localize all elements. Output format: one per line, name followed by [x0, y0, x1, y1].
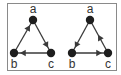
node-label-c: c — [48, 57, 54, 71]
node-b — [68, 49, 76, 57]
node-label-b: b — [11, 57, 18, 71]
arrowhead-icon — [96, 50, 102, 56]
node-c — [47, 49, 55, 57]
node-label-c: c — [105, 57, 111, 71]
right-graph: abc — [68, 2, 112, 71]
node-c — [104, 49, 112, 57]
edge-a-b — [72, 20, 90, 53]
arrowhead-icon — [20, 50, 26, 56]
left-graph: abc — [10, 2, 55, 71]
node-label-a: a — [30, 2, 37, 16]
node-a — [29, 16, 37, 24]
node-a — [86, 16, 94, 24]
node-label-b: b — [69, 57, 76, 71]
graph-canvas: abcabc — [0, 0, 121, 75]
node-b — [10, 49, 18, 57]
edge-b-a — [14, 20, 33, 53]
node-label-a: a — [87, 2, 94, 16]
edge-a-c — [33, 20, 51, 53]
